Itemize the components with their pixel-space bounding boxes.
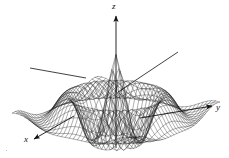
left-guide-line [30, 68, 86, 78]
mesh-line [126, 101, 211, 143]
x-axis-label: x [24, 135, 28, 144]
mesh-line [37, 82, 122, 129]
right-guide-line [118, 52, 178, 92]
mesh-line [25, 81, 110, 123]
y-axis-label: y [216, 103, 220, 112]
z-axis-label: z [112, 2, 116, 11]
center-speck [116, 117, 117, 118]
surface-plot-figure: z y x [0, 0, 229, 158]
mesh-line [110, 97, 195, 144]
mesh-line [75, 81, 197, 125]
corner-speck [6, 150, 7, 151]
surface-plot-canvas [0, 0, 229, 158]
